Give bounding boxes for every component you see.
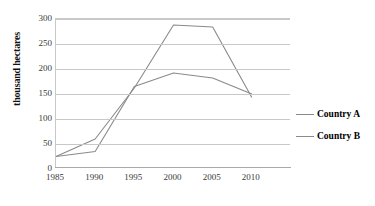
- gridline: [56, 19, 290, 20]
- chart-legend: Country A Country B: [296, 103, 375, 147]
- gridline: [56, 119, 290, 120]
- x-axis-line: [55, 167, 291, 168]
- legend-label: Country A: [317, 109, 360, 119]
- x-axis-tick-label: 2000: [164, 172, 182, 182]
- legend-label: Country B: [317, 131, 360, 141]
- x-axis-tick-label: 2010: [242, 172, 260, 182]
- legend-line-swatch-icon: [296, 136, 314, 137]
- y-axis-tick-label: 250: [20, 38, 52, 48]
- gridline: [56, 94, 290, 95]
- y-axis-tick-labels: 050100150200250300: [20, 18, 52, 168]
- gridline: [56, 69, 290, 70]
- legend-line-swatch-icon: [296, 114, 314, 115]
- x-axis-tick-label: 2005: [203, 172, 221, 182]
- chart-title: [0, 0, 290, 1]
- x-axis-tick-labels: 198519901995200020052010: [55, 172, 290, 188]
- y-axis-tick-label: 100: [20, 113, 52, 123]
- plot-area: [55, 18, 290, 168]
- x-axis-tick-label: 1990: [85, 172, 103, 182]
- line-chart: thousand hectares 050100150200250300 198…: [0, 0, 375, 206]
- gridline: [56, 44, 290, 45]
- x-axis-tick-label: 1985: [46, 172, 64, 182]
- y-axis-tick-label: 300: [20, 13, 52, 23]
- y-axis-tick-label: 150: [20, 88, 52, 98]
- y-axis-tick-label: 50: [20, 138, 52, 148]
- legend-item-country-b[interactable]: Country B: [296, 125, 375, 147]
- y-axis-tick-label: 200: [20, 63, 52, 73]
- gridline: [56, 144, 290, 145]
- legend-item-country-a[interactable]: Country A: [296, 103, 375, 125]
- x-axis-tick-label: 1995: [124, 172, 142, 182]
